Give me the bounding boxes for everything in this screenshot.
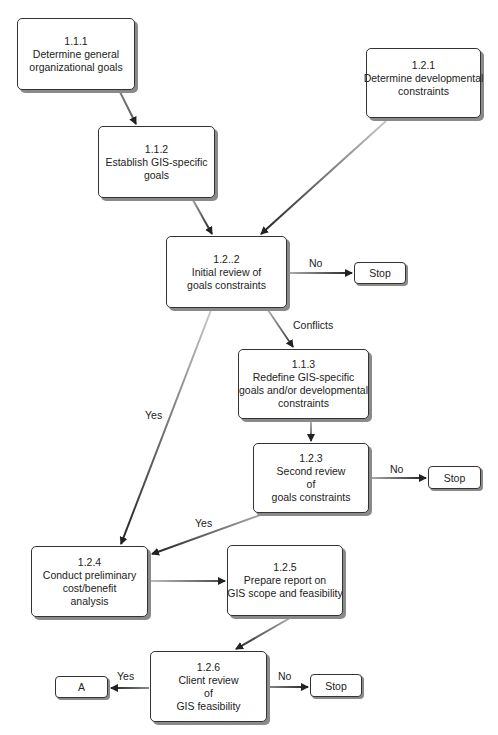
edge-125-126: [236, 618, 290, 649]
edge-122-113: [268, 310, 293, 347]
node-1-2-2: 1.2..2 Initial review of goals constrain…: [166, 236, 287, 308]
node-text: analysis: [71, 595, 109, 608]
node-id: 1.2.1: [412, 59, 435, 72]
node-id: 1.2.5: [273, 561, 296, 574]
node-id: 1.1.3: [292, 358, 315, 371]
node-1-1-3: 1.1.3 Redefine GIS-specific goals and/or…: [238, 349, 369, 419]
node-id: 1.2..2: [213, 253, 239, 266]
node-text: Determine developmental: [364, 72, 484, 85]
node-text: of: [204, 687, 213, 700]
edge-label-yes: Yes: [117, 670, 134, 682]
node-text: goals and/or developmental: [239, 384, 368, 397]
node-text: GIS scope and feasibility: [227, 587, 343, 600]
connector-a: A: [55, 676, 108, 698]
node-text: goals constraints: [272, 491, 351, 504]
node-id: 1.1.1: [64, 35, 87, 48]
node-1-2-3: 1.2.3 Second review of goals constraints: [253, 443, 369, 513]
node-text: Determine general: [33, 48, 119, 61]
node-text: Client review: [178, 674, 238, 687]
edge-111-112: [120, 92, 136, 124]
node-text: goals: [144, 169, 169, 182]
edge-label-conflicts: Conflicts: [293, 319, 333, 331]
edge-label-yes: Yes: [145, 409, 162, 421]
node-1-2-5: 1.2.5 Prepare report on GIS scope and fe…: [227, 545, 343, 616]
node-text: cost/benefit: [63, 582, 117, 595]
edge-label-no: No: [309, 257, 322, 269]
node-1-2-1: 1.2.1 Determine developmental constraint…: [366, 48, 481, 118]
stop-terminal-1: Stop: [354, 262, 406, 284]
node-text: organizational goals: [29, 61, 122, 74]
node-text: Conduct preliminary: [43, 569, 136, 582]
edge-121-122: [261, 121, 386, 234]
node-id: 1.2.3: [299, 452, 322, 465]
node-1-1-2: 1.1.2 Establish GIS-specific goals: [98, 126, 215, 198]
edge-112-122: [193, 200, 212, 234]
node-text: of: [307, 478, 316, 491]
node-id: 1.1.2: [145, 143, 168, 156]
node-text: constraints: [278, 397, 329, 410]
node-text: Establish GIS-specific: [105, 156, 207, 169]
node-text: GIS feasibility: [176, 700, 240, 713]
edge-label-no: No: [278, 670, 291, 682]
node-text: Second review: [277, 465, 346, 478]
edge-122-124: [121, 310, 211, 544]
node-1-1-1: 1.1.1 Determine general organizational g…: [17, 18, 135, 90]
node-id: 1.2.6: [197, 661, 220, 674]
stop-terminal-3: Stop: [310, 674, 362, 697]
node-1-2-6: 1.2.6 Client review of GIS feasibility: [150, 651, 267, 722]
node-text: constraints: [398, 85, 449, 98]
node-text: Prepare report on: [244, 574, 326, 587]
node-1-2-4: 1.2.4 Conduct preliminary cost/benefit a…: [31, 546, 148, 617]
node-id: 1.2.4: [78, 556, 101, 569]
node-text: Initial review of: [192, 266, 261, 279]
node-text: Redefine GIS-specific: [253, 371, 355, 384]
edge-label-no: No: [390, 463, 403, 475]
stop-terminal-2: Stop: [428, 466, 481, 489]
edge-label-yes: Yes: [195, 517, 212, 529]
node-text: goals constraints: [187, 279, 266, 292]
